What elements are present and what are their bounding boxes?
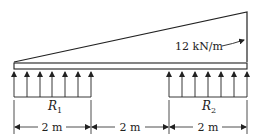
load-label: 12 kN/m — [175, 40, 223, 53]
reaction-r1-arrows — [14, 72, 91, 97]
dimension-2: 2 m — [120, 121, 141, 134]
dimension-3: 2 m — [198, 121, 219, 134]
reaction-r1-label: R1 — [47, 99, 62, 115]
reaction-r2-arrows — [169, 72, 247, 97]
reaction-r2-label: R2 — [201, 99, 216, 115]
triangular-load — [14, 12, 247, 62]
beam — [14, 63, 247, 69]
load-label-group: 12 kN/m — [175, 40, 244, 53]
dimension-1: 2 m — [42, 121, 63, 134]
beam-diagram: 12 kN/m R1 R2 2 — [0, 0, 258, 139]
